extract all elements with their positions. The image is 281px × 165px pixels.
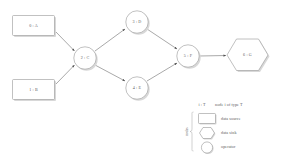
node-f-label: 5 : F [184, 53, 193, 58]
legend-notation-description: node i of type T [215, 102, 243, 107]
edge-d-to-f [147, 29, 177, 49]
node-c[interactable]: 2 : C [74, 47, 98, 71]
edge-c-to-e [95, 65, 125, 81]
node-d[interactable]: 3 : D [126, 11, 150, 35]
dataflow-graph: 0 : A 1 : B 2 : C 3 : D 4 : E [0, 0, 281, 165]
legend-label-data-source: data source [221, 116, 241, 121]
edge-b-to-c [56, 65, 75, 84]
node-d-label: 3 : D [133, 19, 142, 24]
legend-hex-icon [200, 128, 215, 139]
node-g-label: 6 : G [243, 52, 252, 57]
legend-group-label: nodes [185, 127, 189, 136]
node-f[interactable]: 5 : F [177, 45, 201, 69]
diagram-canvas: 0 : A 1 : B 2 : C 3 : D 4 : E [0, 0, 281, 165]
legend-label-data-sink: data sink [221, 130, 237, 135]
node-a-label: 0 : A [29, 23, 38, 28]
edge-c-to-d [95, 29, 125, 51]
edge-a-to-c [56, 32, 75, 51]
node-g[interactable]: 6 : G [227, 39, 270, 72]
node-e-label: 4 : E [133, 85, 142, 90]
legend-notation-key: i : T [198, 102, 206, 107]
legend-circle-icon [201, 142, 212, 153]
legend-label-operator: operator [221, 144, 236, 149]
node-c-label: 2 : C [81, 55, 90, 60]
node-e[interactable]: 4 : E [126, 77, 150, 101]
legend-item-data-source: data source [199, 114, 241, 125]
legend: i : T node i of type T nodes data source… [185, 102, 243, 154]
edge-f-to-g [199, 56, 226, 57]
edge-e-to-f [147, 63, 177, 81]
legend-item-data-sink: data sink [200, 128, 238, 140]
legend-brace [190, 112, 194, 151]
node-b-label: 1 : B [29, 87, 38, 92]
legend-rect-icon [199, 114, 216, 124]
node-b[interactable]: 1 : B [13, 80, 57, 102]
node-a[interactable]: 0 : A [13, 16, 57, 38]
legend-item-operator: operator [201, 142, 236, 154]
